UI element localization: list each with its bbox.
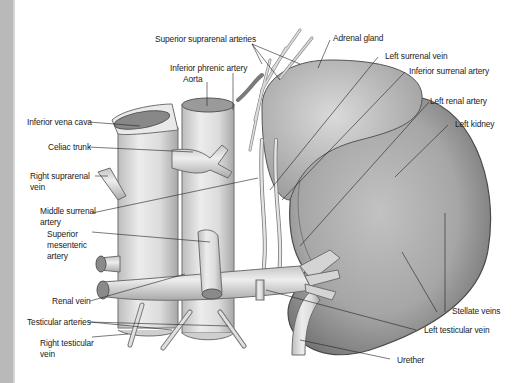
aorta-shape [182, 98, 234, 340]
label-inferior-surrenal-artery: Inferior surrenal artery [409, 66, 489, 77]
label-right-suprarenal-vein: Right suprarenal vein [30, 171, 90, 193]
label-inferior-vena-cava: Inferior vena cava [27, 117, 92, 128]
label-aorta: Aorta [183, 74, 203, 85]
label-superior-mesenteric-artery: Superior mesenteric artery [47, 229, 87, 262]
label-urether: Urether [397, 355, 424, 366]
label-adrenal-gland: Adrenal gland [333, 33, 383, 44]
label-inferior-phrenic-artery: Inferior phrenic artery [170, 63, 247, 74]
label-line: artery [40, 217, 96, 228]
label-testicular-arteries: Testicular arteries [27, 317, 91, 328]
label-line: Right suprarenal [30, 171, 90, 182]
label-left-renal-artery: Left renal artery [430, 96, 487, 107]
label-celiac-trunk: Celiac trunk [48, 142, 91, 153]
label-line: Superior [47, 229, 87, 240]
label-line: mesenteric [47, 240, 87, 251]
inferior-vena-cava-shape [112, 104, 178, 336]
label-left-surrenal-vein: Left surrenal vein [385, 51, 447, 62]
label-line: vein [30, 182, 90, 193]
label-left-kidney: Left kidney [455, 119, 494, 130]
label-stellate-veins: Stellate veins [452, 306, 500, 317]
label-left-testicular-vein: Left testicular vein [424, 325, 490, 336]
label-line: Right testicular [40, 338, 94, 349]
label-superior-suprarenal-arteries: Superior suprarenal arteries [155, 34, 256, 45]
label-middle-surrenal-artery: Middle surrenal artery [40, 206, 96, 228]
label-line: artery [47, 251, 87, 262]
label-renal-vein: Renal vein [52, 296, 91, 307]
label-right-testicular-vein: Right testicular vein [40, 338, 94, 360]
label-line: Middle surrenal [40, 206, 96, 217]
label-line: vein [40, 349, 94, 360]
